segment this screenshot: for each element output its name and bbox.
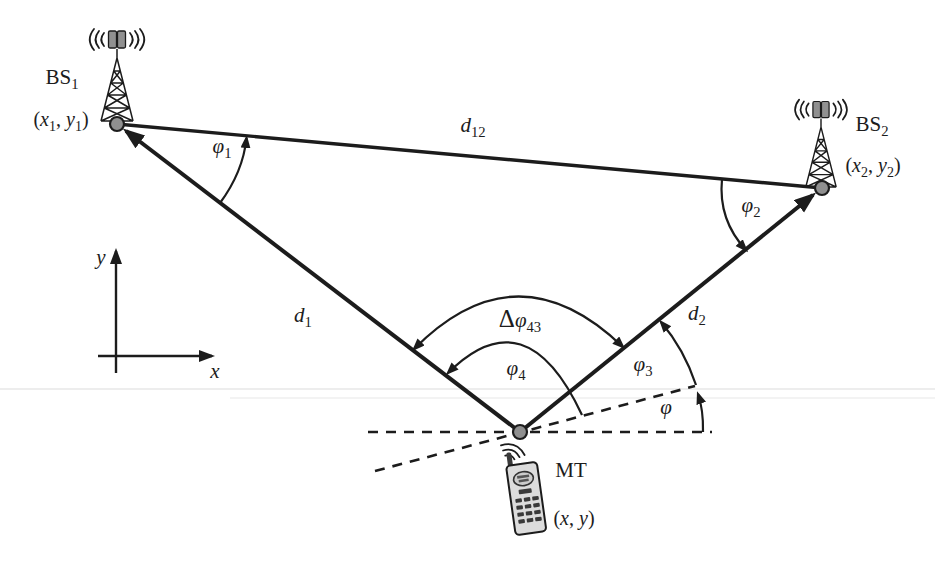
d12-distance-label: d12	[460, 115, 485, 140]
phi4-angle-label: φ4	[507, 358, 526, 383]
bs2-radio-tower-icon	[795, 100, 847, 187]
bs1-coords-label: (x1, y1)	[33, 109, 88, 134]
mt-coords-label: (x, y)	[553, 508, 594, 528]
figure-canvas: BS1 (x1, y1) BS2 (x2, y2) MT (x, y) d12 …	[0, 0, 935, 579]
d1-line	[126, 131, 520, 432]
bs1-label: BS1	[45, 67, 78, 92]
mt-label: MT	[555, 460, 587, 481]
phi3-angle-label: φ3	[634, 354, 653, 379]
phi-heading-angle-label: φ	[660, 397, 672, 418]
scan-artifact-line	[230, 397, 935, 399]
phi3-angle-arc	[661, 322, 696, 385]
d1-distance-label: d1	[294, 305, 312, 330]
coordinate-axes	[98, 251, 212, 373]
phi-angle-arc	[698, 394, 703, 432]
bs2-node-dot	[815, 181, 829, 195]
geometry-layer	[0, 0, 935, 579]
bs1-node-dot	[110, 117, 124, 131]
bs1-radio-tower-icon	[90, 29, 145, 121]
mt-node-dot	[513, 425, 527, 439]
bs2-label: BS2	[855, 114, 888, 139]
mt-signal-waves	[501, 444, 525, 459]
delta-phi43-angle-label: Δφ43	[499, 306, 541, 335]
y-axis-label: y	[96, 247, 105, 268]
phi2-angle-label: φ2	[742, 195, 761, 220]
x-axis-label: x	[210, 361, 219, 382]
bs2-coords-label: (x2, y2)	[845, 155, 900, 180]
d2-distance-label: d2	[688, 303, 706, 328]
mt-mobile-phone-icon	[501, 444, 546, 535]
phi1-angle-label: φ1	[213, 136, 232, 161]
